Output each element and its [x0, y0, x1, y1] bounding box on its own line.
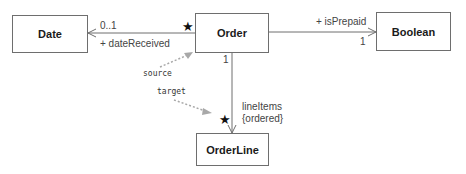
annotation-target: target: [157, 86, 186, 97]
multiplicity-order-date-source: ★: [182, 20, 194, 33]
role-date-received: + dateReceived: [100, 38, 170, 49]
filled-arrowhead-icon: [184, 52, 193, 59]
multiplicity-boolean: 1: [360, 36, 366, 47]
role-is-prepaid: + isPrepaid: [316, 16, 366, 27]
class-orderline[interactable]: OrderLine: [196, 133, 269, 166]
role-line-items: lineItems: [242, 101, 282, 112]
class-order[interactable]: Order: [195, 13, 269, 53]
class-date[interactable]: Date: [12, 15, 88, 53]
annotation-source: source: [143, 68, 172, 79]
multiplicity-order-orderline-source: 1: [223, 54, 229, 65]
filled-arrowhead-icon: [202, 108, 212, 115]
class-boolean[interactable]: Boolean: [376, 12, 451, 51]
source-pointer: [160, 54, 190, 67]
constraint-ordered: {ordered}: [242, 113, 283, 124]
multiplicity-orderline: ★: [219, 113, 231, 126]
multiplicity-date: 0..1: [100, 20, 117, 31]
